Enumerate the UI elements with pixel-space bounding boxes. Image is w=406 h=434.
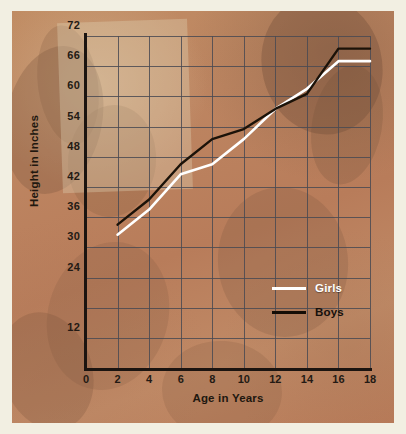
x-axis-tick-label: 2 <box>108 374 128 385</box>
y-axis-tick-label: 72 <box>67 20 80 31</box>
legend-item-boys: Boys <box>272 300 372 324</box>
y-axis-tick-label: 48 <box>67 141 80 152</box>
y-axis-tick-label: 60 <box>67 80 80 91</box>
x-axis-line <box>84 368 372 371</box>
legend-swatch-boys <box>272 311 306 314</box>
y-axis-title: Height in Inches <box>28 101 40 221</box>
y-axis-tick-label: 30 <box>67 231 80 242</box>
y-axis-tick-label: 12 <box>67 322 80 333</box>
legend-item-girls: Girls <box>272 276 372 300</box>
x-axis-tick-label: 4 <box>139 374 159 385</box>
y-axis-tick-labels: 12243036424854606672 <box>44 0 80 434</box>
series-line-girls <box>118 61 370 235</box>
x-axis-tick-label: 0 <box>76 374 96 385</box>
x-axis-tick-label: 16 <box>328 374 348 385</box>
x-axis-tick-labels: 024681012141618 <box>86 374 376 390</box>
y-axis-tick-label: 36 <box>67 201 80 212</box>
x-axis-tick-label: 6 <box>171 374 191 385</box>
y-axis-tick-label: 66 <box>67 50 80 61</box>
legend-swatch-girls <box>272 287 306 290</box>
x-axis-tick-label: 18 <box>360 374 380 385</box>
chart-legend: Girls Boys <box>272 276 372 324</box>
series-line-boys <box>118 49 370 225</box>
legend-label-girls: Girls <box>315 282 342 294</box>
y-axis-tick-label: 54 <box>67 111 80 122</box>
y-axis-tick-label: 24 <box>67 262 80 273</box>
x-axis-title: Age in Years <box>86 392 370 404</box>
legend-label-boys: Boys <box>315 306 344 318</box>
figure-frame: 12243036424854606672 024681012141618 Hei… <box>0 0 406 434</box>
x-axis-tick-label: 12 <box>265 374 285 385</box>
x-axis-tick-label: 14 <box>297 374 317 385</box>
y-axis-tick-label: 42 <box>67 171 80 182</box>
x-axis-tick-label: 10 <box>234 374 254 385</box>
x-axis-tick-label: 8 <box>202 374 222 385</box>
